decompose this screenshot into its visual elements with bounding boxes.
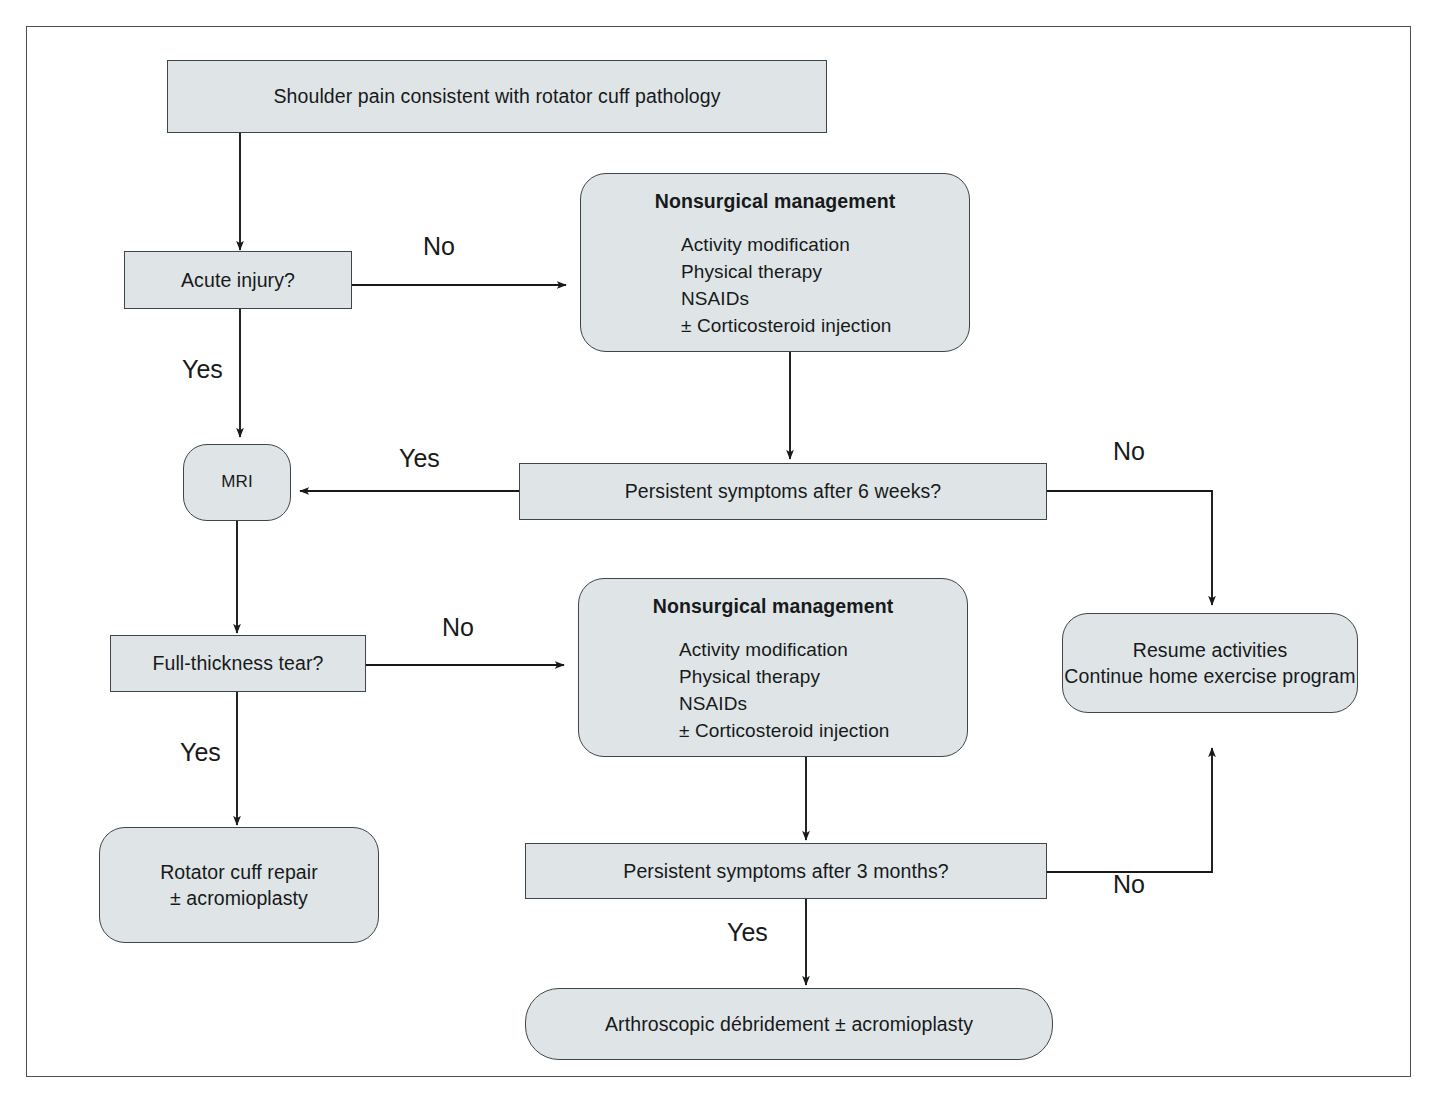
node-mri[interactable]: MRI [183, 444, 291, 521]
node-title: Nonsurgical management [581, 188, 969, 214]
node-acute-injury-decision[interactable]: Acute injury? [124, 251, 352, 309]
node-label: Persistent symptoms after 6 weeks? [625, 478, 942, 504]
node-label-line1: Resume activities [1133, 637, 1288, 663]
node-item-list: Activity modification Physical therapy N… [579, 637, 967, 745]
node-label: Acute injury? [181, 267, 295, 293]
node-full-thickness-tear-decision[interactable]: Full-thickness tear? [110, 635, 366, 692]
edge-label-tear-no: No [442, 613, 474, 642]
node-shoulder-pain-start[interactable]: Shoulder pain consistent with rotator cu… [167, 60, 827, 133]
edge-label-3months-yes: Yes [727, 918, 768, 947]
node-label: Shoulder pain consistent with rotator cu… [273, 83, 720, 109]
list-item: Physical therapy [679, 664, 967, 691]
node-label: Full-thickness tear? [152, 650, 323, 676]
node-arthroscopic-debridement[interactable]: Arthroscopic débridement ± acromioplasty [525, 988, 1053, 1060]
edge-label-acute-no: No [423, 232, 455, 261]
list-item: ± Corticosteroid injection [681, 313, 969, 340]
node-persistent-symptoms-6-weeks-decision[interactable]: Persistent symptoms after 6 weeks? [519, 463, 1047, 520]
list-item: NSAIDs [679, 691, 967, 718]
list-item: Activity modification [681, 232, 969, 259]
list-item: Activity modification [679, 637, 967, 664]
list-item: NSAIDs [681, 286, 969, 313]
node-label: Persistent symptoms after 3 months? [623, 858, 948, 884]
flowchart-canvas: Shoulder pain consistent with rotator cu… [0, 0, 1439, 1105]
edge-label-6weeks-yes: Yes [399, 444, 440, 473]
node-label: MRI [221, 471, 252, 494]
list-item: Physical therapy [681, 259, 969, 286]
node-label-line1: Rotator cuff repair [160, 859, 318, 885]
node-title: Nonsurgical management [579, 593, 967, 619]
list-item: ± Corticosteroid injection [679, 718, 967, 745]
edge-label-3months-no: No [1113, 870, 1145, 899]
node-persistent-symptoms-3-months-decision[interactable]: Persistent symptoms after 3 months? [525, 843, 1047, 899]
edge-label-acute-yes: Yes [182, 355, 223, 384]
node-rotator-cuff-repair[interactable]: Rotator cuff repair ± acromioplasty [99, 827, 379, 943]
node-nonsurgical-management-top[interactable]: Nonsurgical management Activity modifica… [580, 173, 970, 352]
node-resume-activities[interactable]: Resume activities Continue home exercise… [1062, 613, 1358, 713]
node-nonsurgical-management-bottom[interactable]: Nonsurgical management Activity modifica… [578, 578, 968, 757]
edge-label-6weeks-no: No [1113, 437, 1145, 466]
node-label: Arthroscopic débridement ± acromioplasty [605, 1011, 973, 1037]
node-label-line2: Continue home exercise program [1064, 663, 1355, 689]
node-label-line2: ± acromioplasty [170, 885, 308, 911]
node-item-list: Activity modification Physical therapy N… [581, 232, 969, 340]
edge-label-tear-yes: Yes [180, 738, 221, 767]
